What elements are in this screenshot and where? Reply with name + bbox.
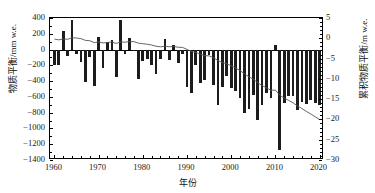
y2-axis-tick-label: −15: [326, 93, 354, 103]
y2-axis-minor-tick: [320, 46, 322, 47]
x-axis-minor-tick: [249, 156, 250, 158]
y2-axis-minor-tick: [320, 87, 322, 88]
y-axis-tick: [50, 160, 53, 161]
y-axis-tick-label: −1000: [3, 122, 45, 132]
y2-axis-minor-tick: [320, 144, 322, 145]
cumulative-line-series: [50, 18, 322, 158]
x-axis-minor-tick: [169, 156, 170, 158]
plot-area: [49, 17, 323, 159]
y2-axis-tick: [319, 160, 322, 161]
y2-axis-tick-label: 5: [326, 12, 354, 22]
x-axis-minor-tick: [116, 156, 117, 158]
y2-axis-tick: [319, 59, 322, 60]
x-axis-minor-tick: [178, 156, 179, 158]
y-axis-minor-tick: [50, 152, 52, 153]
y-axis-minor-tick: [50, 105, 52, 106]
x-axis-minor-tick: [134, 156, 135, 158]
y2-axis-minor-tick: [320, 34, 322, 35]
x-axis-tick-label: 1980: [122, 162, 162, 172]
y2-axis-minor-tick: [320, 136, 322, 137]
y2-axis-tick: [319, 140, 322, 141]
y2-axis-tick-label: −20: [326, 113, 354, 123]
y2-axis-minor-tick: [320, 22, 322, 23]
x-axis-minor-tick: [125, 156, 126, 158]
x-axis-minor-tick: [196, 156, 197, 158]
x-axis-tick-label: 1960: [33, 162, 73, 172]
y2-axis-minor-tick: [320, 95, 322, 96]
y-axis-minor-tick: [50, 89, 52, 90]
y2-axis-tick: [319, 119, 322, 120]
x-axis-tick: [320, 155, 321, 158]
chart-figure: 物质平衡/mm w.e. 累积物质平衡/m w.e. 年份 4002000−20…: [0, 0, 375, 193]
y2-axis-tick: [319, 79, 322, 80]
y-axis-tick-label: −600: [3, 91, 45, 101]
y-axis-tick-label: 200: [3, 28, 45, 38]
x-axis-minor-tick: [284, 156, 285, 158]
x-axis-minor-tick: [160, 156, 161, 158]
y2-axis-minor-tick: [320, 50, 322, 51]
x-axis-tick-label: 2000: [210, 162, 250, 172]
y-axis-minor-tick: [50, 136, 52, 137]
x-axis-title: 年份: [0, 176, 375, 189]
y2-axis-tick: [319, 18, 322, 19]
y2-axis-minor-tick: [320, 30, 322, 31]
y2-axis-minor-tick: [320, 123, 322, 124]
x-axis-minor-tick: [240, 156, 241, 158]
y-axis-tick-label: 400: [3, 12, 45, 22]
y-axis-tick-label: −1200: [3, 138, 45, 148]
y-axis-tick: [50, 34, 53, 35]
x-axis-tick: [143, 155, 144, 158]
y2-axis-minor-tick: [320, 71, 322, 72]
x-axis-minor-tick: [72, 156, 73, 158]
y2-axis-minor-tick: [320, 128, 322, 129]
x-axis-tick-label: 2020: [299, 162, 339, 172]
x-axis-tick-label: 2010: [254, 162, 294, 172]
x-axis-minor-tick: [90, 156, 91, 158]
y-axis-tick: [50, 65, 53, 66]
y2-axis-minor-tick: [320, 148, 322, 149]
y2-axis-tick: [319, 38, 322, 39]
x-axis-minor-tick: [311, 156, 312, 158]
y-axis-right-title: 累积物质平衡/m w.e.: [357, 3, 370, 115]
y2-axis-tick-label: 0: [326, 32, 354, 42]
y-axis-tick-label: 0: [3, 44, 45, 54]
x-axis-tick-label: 1970: [78, 162, 118, 172]
y2-axis-minor-tick: [320, 67, 322, 68]
y-axis-tick: [50, 18, 53, 19]
x-axis-tick-label: 1990: [166, 162, 206, 172]
x-axis-minor-tick: [214, 156, 215, 158]
y2-axis-minor-tick: [320, 63, 322, 64]
y-axis-minor-tick: [50, 42, 52, 43]
y-axis-tick: [50, 128, 53, 129]
y-axis-tick-label: −800: [3, 107, 45, 117]
x-axis-minor-tick: [258, 156, 259, 158]
y2-axis-tick-label: −10: [326, 73, 354, 83]
y2-axis-minor-tick: [320, 103, 322, 104]
y2-axis-minor-tick: [320, 83, 322, 84]
y-axis-tick: [50, 113, 53, 114]
x-axis-tick: [99, 155, 100, 158]
x-axis-minor-tick: [302, 156, 303, 158]
y-axis-minor-tick: [50, 73, 52, 74]
y2-axis-minor-tick: [320, 42, 322, 43]
x-axis-minor-tick: [107, 156, 108, 158]
x-axis-minor-tick: [267, 156, 268, 158]
y-axis-tick-label: −400: [3, 75, 45, 85]
y2-axis-tick-label: −5: [326, 53, 354, 63]
x-axis-minor-tick: [63, 156, 64, 158]
x-axis-tick: [54, 155, 55, 158]
y-axis-tick: [50, 50, 53, 51]
y2-axis-minor-tick: [320, 132, 322, 133]
y2-axis-minor-tick: [320, 75, 322, 76]
x-axis-tick: [187, 155, 188, 158]
plot-inner: [50, 18, 322, 158]
y-axis-tick: [50, 144, 53, 145]
y2-axis-tick: [319, 99, 322, 100]
x-axis-minor-tick: [152, 156, 153, 158]
y2-axis-minor-tick: [320, 55, 322, 56]
y2-axis-minor-tick: [320, 115, 322, 116]
x-axis-minor-tick: [205, 156, 206, 158]
y-axis-tick: [50, 81, 53, 82]
y2-axis-minor-tick: [320, 152, 322, 153]
y-axis-minor-tick: [50, 57, 52, 58]
